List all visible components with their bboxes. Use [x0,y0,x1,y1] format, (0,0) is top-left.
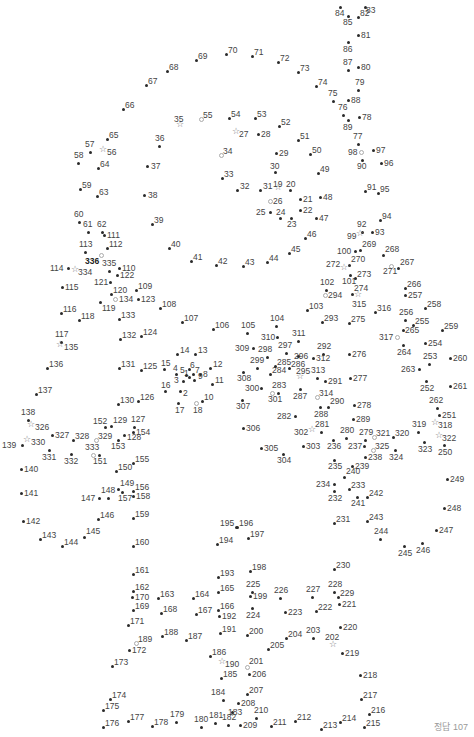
point-number-label: 25 [256,208,265,217]
dot-icon [123,434,126,437]
dot-icon [246,332,249,335]
point-number-label: 321 [376,429,390,438]
dot-icon [349,377,352,380]
dot-icon [132,495,135,498]
dot-icon [137,298,140,301]
point-number-label: 14 [180,346,189,355]
point-number-label: 11 [215,376,224,385]
point-number-label: 307 [236,402,250,411]
point-number-label: 324 [389,453,403,462]
point-number-label: 160 [135,538,149,547]
dot-icon [449,385,452,388]
dot-icon [51,434,54,437]
dot-icon [285,352,288,355]
point-number-label: 64 [100,160,109,169]
point-number-label: 169 [135,602,149,611]
point-number-label: 159 [135,510,149,519]
point-number-label: 143 [42,531,56,540]
point-number-label: 72 [280,54,289,63]
point-number-label: 80 [361,63,370,72]
point-number-label: 76 [338,103,347,112]
point-number-label: 214 [342,714,356,723]
point-number-label: 231 [336,515,350,524]
point-number-label: 3 [174,376,179,385]
point-number-label: 299 [250,356,264,365]
point-number-label: 313 [311,366,325,375]
point-number-label: 88 [351,96,360,105]
point-number-label: 13 [198,346,207,355]
point-number-label: 46 [307,230,316,239]
dot-icon [404,294,407,297]
dot-icon [275,325,278,328]
point-number-label: 243 [369,513,383,522]
point-number-label: 263 [401,365,415,374]
point-number-label: 261 [453,382,467,391]
point-number-label: 26 [273,197,282,206]
dot-icon [443,507,446,510]
dot-icon [98,497,101,500]
dot-icon [209,367,212,370]
point-number-label: 192 [222,612,236,621]
dot-icon [77,162,80,165]
dot-icon [176,353,179,356]
point-number-label: 319 [412,420,426,429]
point-number-label: 59 [82,181,91,190]
point-number-label: 240 [346,467,360,476]
point-number-label: 158 [136,492,150,501]
dot-icon [109,281,112,284]
point-number-label: 325 [375,442,389,451]
point-number-label: 265 [405,326,419,335]
dot-icon [279,597,282,600]
dot-icon [297,340,300,343]
point-number-label: 168 [163,605,177,614]
point-number-label: 142 [26,517,40,526]
point-number-label: 113 [79,240,93,249]
point-number-label: 279 [359,428,373,437]
point-number-label: 271 [383,267,397,276]
point-number-label: 213 [323,721,337,730]
dot-icon [380,162,383,165]
point-number-label: 166 [220,602,234,611]
dot-icon [108,270,111,273]
dot-icon [363,445,366,448]
dot-icon [311,596,314,599]
point-number-label: 218 [363,671,377,680]
point-number-label: 257 [408,291,422,300]
point-number-label: 235 [328,462,342,471]
point-number-label: 200 [249,627,263,636]
point-number-label: 83 [366,6,375,15]
point-number-label: 149 [120,479,134,488]
point-number-label: 34 [223,147,232,156]
point-number-label: 53 [257,110,266,119]
point-number-label: 314 [319,389,333,398]
point-number-label: 288 [314,410,328,419]
dot-icon [107,497,110,500]
point-number-label: 42 [218,257,227,266]
point-number-label: 331 [42,453,56,462]
point-number-label: 233 [351,481,365,490]
point-number-label: 297 [278,341,292,350]
point-number-label: 178 [154,718,168,727]
point-number-label: 102 [320,278,334,287]
dot-icon [84,251,87,254]
point-number-label: 248 [447,504,461,513]
point-number-label: 57 [85,140,94,149]
point-number-label: 221 [342,600,356,609]
point-number-label: 291 [328,377,342,386]
point-number-label: 18 [193,406,202,415]
point-number-label: 267 [400,258,414,267]
dot-icon [359,674,362,677]
hollow-dot-icon [91,453,96,458]
point-number-label: 225 [246,580,260,589]
point-number-label: 199 [253,592,267,601]
point-number-label: 236 [327,442,341,451]
point-number-label: 224 [246,611,260,620]
point-number-label: 247 [439,526,453,535]
point-number-label: 75 [328,89,337,98]
point-number-label: 266 [407,280,421,289]
point-number-label: 242 [369,489,383,498]
star-marker-icon: ☆ [99,145,107,154]
point-number-label: 273 [357,270,371,279]
point-number-label: 145 [86,527,100,536]
dot-icon [103,234,106,237]
